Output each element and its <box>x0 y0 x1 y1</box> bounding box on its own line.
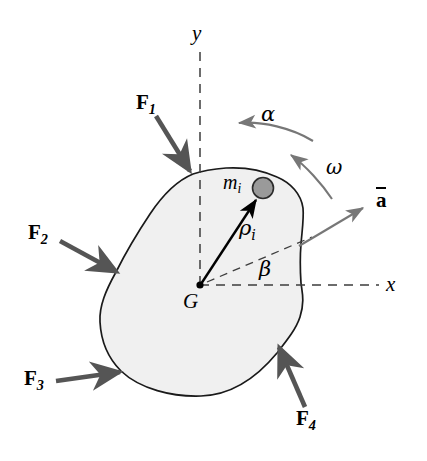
force-3-subscript: 3 <box>37 377 44 393</box>
force-1-symbol: F <box>136 90 149 114</box>
y-axis-label: y <box>192 23 201 44</box>
rho-symbol: ρ <box>239 216 251 240</box>
figure-canvas: y x F1 F2 F3 F4 mi ρi β α ω a G <box>0 0 427 461</box>
force-2-label: F2 <box>28 222 48 246</box>
force-1-arrow <box>156 116 190 171</box>
center-of-mass-label: G <box>183 291 198 312</box>
a-bar-symbol: a <box>376 190 387 211</box>
force-3-symbol: F <box>24 366 37 390</box>
diagram-svg <box>0 0 427 461</box>
force-2-symbol: F <box>28 220 41 244</box>
mass-particle-circle <box>253 178 274 199</box>
omega-label: ω <box>326 157 342 177</box>
force-4-label: F4 <box>296 408 316 432</box>
acceleration-vector-arrow <box>299 208 363 246</box>
mass-element-subscript: i <box>237 181 241 196</box>
force-2-arrow <box>60 241 117 272</box>
force-1-label: F1 <box>136 92 156 116</box>
alpha-curved-arrow <box>239 123 313 141</box>
force-4-subscript: 4 <box>309 417 316 433</box>
mass-element-symbol: m <box>223 171 237 193</box>
a-symbol: a <box>376 188 387 212</box>
overbar <box>376 187 386 189</box>
beta-angle-label: β <box>259 259 271 280</box>
mass-element-label: mi <box>223 172 241 196</box>
force-4-symbol: F <box>296 406 309 430</box>
center-of-mass-point <box>196 281 203 288</box>
force-2-subscript: 2 <box>41 231 48 247</box>
rho-subscript: i <box>251 227 256 243</box>
force-3-arrow <box>56 372 120 381</box>
rho-vector-label: ρi <box>239 218 256 242</box>
x-axis-label: x <box>386 274 395 295</box>
force-4-arrow <box>279 347 305 407</box>
force-3-label: F3 <box>24 368 44 392</box>
force-1-subscript: 1 <box>149 101 156 117</box>
alpha-label: α <box>261 104 275 125</box>
acceleration-vector-label: a <box>376 190 387 211</box>
